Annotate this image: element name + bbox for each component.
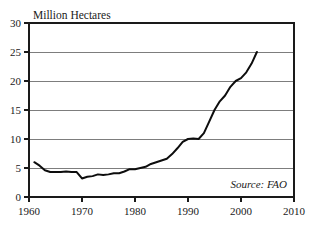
gridlines xyxy=(29,52,294,168)
y-axis-label-10: 10 xyxy=(10,133,22,145)
y-axis-label-15: 15 xyxy=(10,104,22,116)
y-axis-tick-labels: 30 25 20 15 10 5 0 xyxy=(10,17,22,203)
x-axis-label-1980: 1980 xyxy=(124,205,147,217)
line-chart: 30 25 20 15 10 5 0 1960 1970 1980 1990 2… xyxy=(0,0,314,237)
x-axis-label-1990: 1990 xyxy=(177,205,200,217)
y-axis-label-5: 5 xyxy=(16,162,22,174)
y-axis-label-25: 25 xyxy=(10,46,22,58)
chart-title: Million Hectares xyxy=(33,9,111,21)
x-axis-label-1960: 1960 xyxy=(18,205,41,217)
x-axis-label-1970: 1970 xyxy=(71,205,94,217)
y-axis-label-0: 0 xyxy=(16,191,22,203)
x-axis-label-2010: 2010 xyxy=(283,205,306,217)
x-axis-label-2000: 2000 xyxy=(230,205,253,217)
x-tick-marks xyxy=(29,197,294,202)
chart-page: 30 25 20 15 10 5 0 1960 1970 1980 1990 2… xyxy=(0,0,314,237)
y-axis-label-20: 20 xyxy=(10,75,22,87)
y-axis-label-30: 30 xyxy=(10,17,22,29)
y-tick-marks xyxy=(24,23,29,197)
source-annotation: Source: FAO xyxy=(230,178,287,190)
data-series-line xyxy=(34,52,257,178)
x-axis-tick-labels: 1960 1970 1980 1990 2000 2010 xyxy=(18,205,306,217)
